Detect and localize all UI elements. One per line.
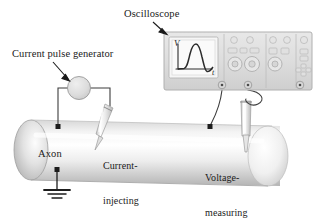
small-knob-3a[interactable] <box>300 36 307 43</box>
switch-1b[interactable] <box>240 48 247 53</box>
scope-wire-voltage <box>246 90 262 105</box>
connector-right-pin <box>299 84 302 87</box>
current-pulse-generator <box>68 77 91 100</box>
generator-circle <box>68 77 91 100</box>
small-knob-1b[interactable] <box>247 37 254 44</box>
scope-lead-wires <box>210 90 262 126</box>
scope-wire-reference <box>210 90 222 126</box>
oscilloscope-arrow-head <box>159 29 167 35</box>
generator-wire-right <box>90 88 110 106</box>
small-knob-1a[interactable] <box>231 37 238 44</box>
generator-leader-arrow <box>53 62 70 81</box>
label-current-injecting-probe: Current- injecting probe <box>103 136 139 220</box>
small-knob-2a[interactable] <box>270 37 277 44</box>
oscilloscope-leader-arrow <box>153 22 167 35</box>
switch-2b[interactable] <box>281 48 289 54</box>
label-current-probe-line-2: injecting <box>103 195 139 207</box>
large-knob-1a-inner[interactable] <box>232 61 238 67</box>
label-axon: Axon <box>38 148 62 159</box>
voltage-probe-barrel <box>241 101 251 136</box>
axon-contact-dot-left <box>56 124 61 129</box>
label-current-pulse-generator: Current pulse generator <box>12 48 113 59</box>
small-knob-2b[interactable] <box>284 37 291 44</box>
switch-2a[interactable] <box>269 48 277 54</box>
label-voltage-measuring-probe: Voltage- measuring probe <box>205 148 248 220</box>
switch-3a[interactable] <box>300 49 308 54</box>
label-voltage-probe-line-2: measuring <box>205 207 248 219</box>
large-knob-1b-inner[interactable] <box>249 61 255 67</box>
connector-middle-pin <box>247 84 250 87</box>
figure-container: V t Oscilloscope Current pulse generator… <box>0 0 322 220</box>
label-oscilloscope: Oscilloscope <box>124 8 179 19</box>
connector-left-pin <box>221 84 224 87</box>
axon-contact-dot-right <box>208 124 213 129</box>
switch-1a[interactable] <box>228 48 237 53</box>
switch-3b[interactable] <box>300 56 308 61</box>
large-knob-2a-inner[interactable] <box>272 61 278 67</box>
figure-drawing: V t <box>0 0 322 220</box>
label-current-probe-line-1: Current- <box>103 160 139 172</box>
oscilloscope <box>164 32 312 90</box>
generator-arrow-head <box>62 75 70 82</box>
switch-1c[interactable] <box>250 48 259 53</box>
axon-cap-right <box>248 126 288 186</box>
label-voltage-probe-line-1: Voltage- <box>205 172 248 184</box>
